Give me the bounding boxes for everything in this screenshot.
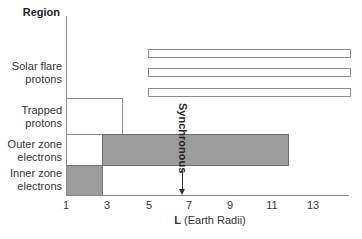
solar-flare-bar-3 [148,88,351,97]
arrow-down-icon [179,189,185,195]
synchronous-label: Synchronous [177,103,189,173]
x-tick: 13 [303,199,323,211]
label-solar-flare-protons: Solar flare protons [12,60,62,86]
x-tick: 9 [220,199,240,211]
trapped-protons-bar [66,98,123,135]
y-axis [66,16,67,196]
x-tick: 3 [97,199,117,211]
label-trapped-protons: Trapped protons [21,104,62,130]
outer-zone-electrons-bar [102,134,289,166]
inner-zone-electrons-bar [66,165,103,196]
x-tick: 11 [262,199,282,211]
y-axis-title: Region [0,6,60,18]
x-tick: 5 [139,199,159,211]
solar-flare-bar-1 [148,49,351,58]
solar-flare-bar-2 [148,68,351,77]
label-outer-zone-electrons: Outer zone electrons [8,138,62,164]
label-inner-zone-electrons: Inner zone electrons [10,167,62,193]
x-axis [66,195,349,196]
outer-zone-empty-cell [66,134,103,166]
x-axis-title: L (Earth Radii) [160,214,260,226]
x-tick: 7 [179,199,199,211]
synchronous-arrow-line [182,168,183,190]
x-tick: 1 [56,199,76,211]
